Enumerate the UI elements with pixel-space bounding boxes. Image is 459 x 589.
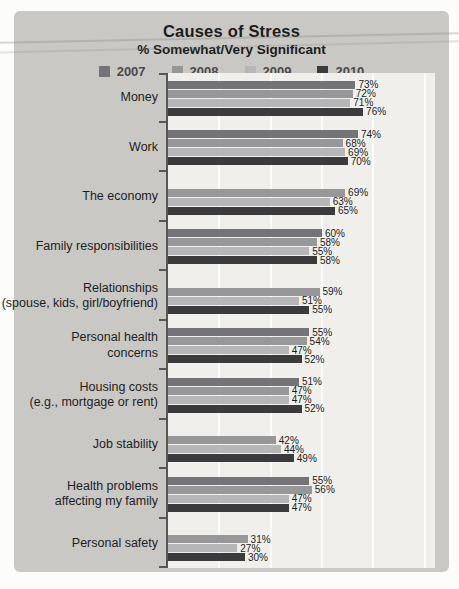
- bar-2008: [168, 486, 312, 494]
- category-group: Health problemsaffecting my family55%56%…: [14, 469, 449, 519]
- bar-row: 65%: [168, 207, 449, 216]
- bar-row: 31%: [168, 535, 449, 544]
- bar-value-label: 49%: [297, 454, 317, 463]
- bars-block: 42%44%49%: [168, 427, 449, 463]
- bars-block: 59%51%55%: [168, 279, 449, 315]
- bar-2010: [168, 306, 309, 314]
- bar-2008: [168, 139, 343, 147]
- bar-2009: [168, 396, 289, 404]
- bar-2009: [168, 297, 299, 305]
- category-label-line: Relationships: [83, 281, 158, 297]
- bar-2010: [168, 108, 363, 116]
- bar-value-label: 52%: [305, 355, 325, 364]
- bar-row: 55%: [168, 306, 449, 315]
- category-group: Job stability42%44%49%: [14, 420, 449, 470]
- chart-card: Causes of Stress % Somewhat/Very Signifi…: [14, 11, 449, 572]
- bar-row: 76%: [168, 108, 449, 117]
- bar-row: 52%: [168, 405, 449, 414]
- category-group: Relationships(spouse, kids, girl/boyfrie…: [14, 271, 449, 321]
- bar-2009: [168, 544, 237, 552]
- bar-row: 69%: [168, 189, 449, 198]
- category-label-line: (spouse, kids, girl/boyfriend): [2, 296, 158, 312]
- bar-2009: [168, 346, 289, 354]
- category-label-line: (e.g., mortgage or rent): [29, 395, 158, 411]
- bar-2008: [168, 238, 317, 246]
- bar-2010: [168, 405, 302, 413]
- bar-row: 51%: [168, 297, 449, 306]
- bar-row: 70%: [168, 157, 449, 166]
- bar-row: 47%: [168, 504, 449, 513]
- bar-2008: [168, 189, 345, 197]
- bar-value-label: 76%: [366, 107, 386, 116]
- bar-row: 60%: [168, 229, 449, 238]
- bar-2007: [168, 229, 322, 237]
- category-label-line: Personal safety: [72, 536, 158, 552]
- bar-2008: [168, 387, 289, 395]
- bar-row: 52%: [168, 355, 449, 364]
- bar-row: 68%: [168, 139, 449, 148]
- category-group: The economy69%63%65%: [14, 172, 449, 222]
- bar-2010: [168, 157, 348, 165]
- bar-row: 55%: [168, 328, 449, 337]
- bar-row: [168, 279, 449, 288]
- category-label-line: Personal health: [71, 330, 158, 346]
- bar-2008: [168, 288, 320, 296]
- bar-2007: [168, 477, 309, 485]
- category-label: Personal healthconcerns: [14, 328, 158, 364]
- bar-2009: [168, 247, 309, 255]
- bar-2009: [168, 198, 330, 206]
- category-label-line: Family responsibilities: [36, 239, 158, 255]
- bar-2008: [168, 90, 353, 98]
- category-label: Job stability: [14, 427, 158, 463]
- category-label-line: Work: [129, 140, 158, 156]
- chart-title: Causes of Stress: [14, 22, 449, 41]
- bar-row: 71%: [168, 99, 449, 108]
- bars-block: 55%56%47%47%: [168, 477, 449, 513]
- bars-block: 31%27%30%: [168, 526, 449, 562]
- bar-value-label: 47%: [292, 503, 312, 512]
- category-label: The economy: [14, 179, 158, 215]
- bar-value-label: 59%: [323, 287, 343, 296]
- bar-row: 42%: [168, 436, 449, 445]
- bar-2008: [168, 535, 248, 543]
- category-group: Family responsibilities60%58%55%58%: [14, 222, 449, 272]
- category-label: Relationships(spouse, kids, girl/boyfrie…: [14, 278, 158, 314]
- category-group: Personal healthconcerns55%54%47%52%: [14, 321, 449, 371]
- category-label-line: Housing costs: [79, 380, 158, 396]
- bars-block: 51%47%47%52%: [168, 378, 449, 414]
- category-label: Money: [14, 80, 158, 116]
- bar-value-label: 56%: [315, 485, 335, 494]
- bar-2009: [168, 148, 345, 156]
- bar-2010: [168, 256, 317, 264]
- bar-row: 55%: [168, 247, 449, 256]
- bar-row: [168, 180, 449, 189]
- category-label-line: Money: [120, 90, 158, 106]
- bar-row: 63%: [168, 198, 449, 207]
- bar-2007: [168, 328, 309, 336]
- bar-value-label: 52%: [305, 404, 325, 413]
- bar-2007: [168, 378, 299, 386]
- bar-value-label: 30%: [248, 553, 268, 562]
- bar-value-label: 65%: [338, 206, 358, 215]
- bar-2007: [168, 81, 355, 89]
- category-group: Money73%72%71%76%: [14, 73, 449, 123]
- category-group: Personal safety31%27%30%: [14, 519, 449, 569]
- category-label: Housing costs(e.g., mortgage or rent): [14, 377, 158, 413]
- category-label-line: Health problems: [67, 479, 158, 495]
- bars-block: 69%63%65%: [168, 180, 449, 216]
- category-group: Work74%68%69%70%: [14, 123, 449, 173]
- bar-2008: [168, 337, 307, 345]
- bar-2009: [168, 495, 289, 503]
- category-label: Personal safety: [14, 526, 158, 562]
- category-label-line: Job stability: [93, 437, 158, 453]
- bar-row: 72%: [168, 90, 449, 99]
- category-label: Health problemsaffecting my family: [14, 476, 158, 512]
- bar-row: 58%: [168, 256, 449, 265]
- category-label-line: The economy: [82, 189, 158, 205]
- bar-2010: [168, 207, 335, 215]
- bar-2010: [168, 553, 245, 561]
- bar-row: 58%: [168, 238, 449, 247]
- bar-row: 30%: [168, 553, 449, 562]
- bars-block: 74%68%69%70%: [168, 130, 449, 166]
